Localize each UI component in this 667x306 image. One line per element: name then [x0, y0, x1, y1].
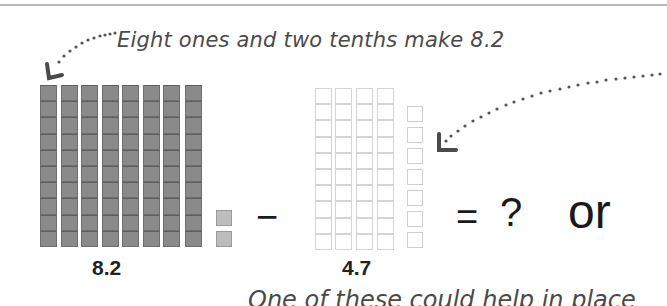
left-dotted-arrow-icon	[57, 31, 116, 63]
ones-column	[185, 85, 202, 247]
minus-sign: −	[256, 196, 278, 239]
tenth-block	[407, 232, 423, 248]
question-mark: ?	[500, 190, 522, 235]
left-arrowhead-icon	[47, 64, 62, 78]
tenth-block	[407, 106, 423, 122]
tenth-block	[407, 211, 423, 227]
ones-column	[315, 88, 332, 250]
ones-column	[61, 85, 78, 247]
right-dotted-arrow-icon	[444, 72, 661, 142]
tenth-block	[407, 148, 423, 164]
ones-column	[143, 85, 160, 247]
equals-sign: =	[456, 196, 478, 239]
ones-column	[81, 85, 98, 247]
ones-column	[40, 85, 57, 247]
ones-column	[122, 85, 139, 247]
ones-column	[377, 88, 394, 250]
right-number-label: 4.7	[342, 256, 371, 280]
tenth-block	[407, 127, 423, 143]
or-word: or	[568, 184, 611, 239]
right-arrowhead-icon	[439, 134, 456, 150]
ones-column	[102, 85, 119, 247]
tenth-block	[407, 190, 423, 206]
tenth-block	[216, 231, 232, 247]
tenth-block	[216, 210, 232, 226]
ones-column	[163, 85, 180, 247]
ones-column	[356, 88, 373, 250]
bottom-caption: One of these could help in place	[248, 286, 636, 306]
left-number-label: 8.2	[92, 256, 121, 280]
ones-column	[335, 88, 352, 250]
tenth-block	[407, 169, 423, 185]
